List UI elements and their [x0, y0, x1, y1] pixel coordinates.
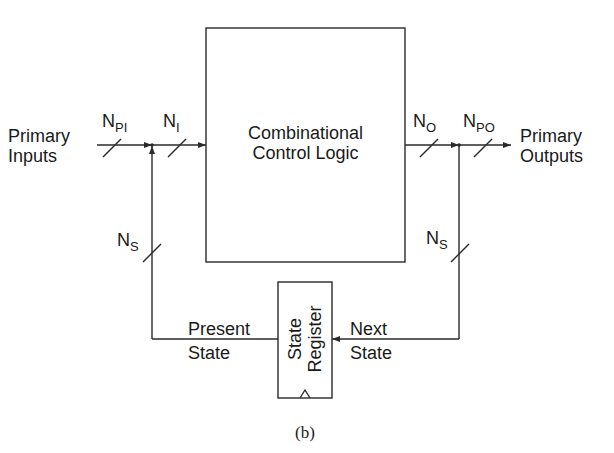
primary-outputs-line1: Primary	[520, 126, 583, 146]
npi-base: N	[102, 111, 115, 131]
primary-outputs-line2: Outputs	[520, 146, 583, 166]
primary-inputs-line2: Inputs	[8, 146, 70, 166]
present-state-label: Present State	[188, 319, 250, 363]
figure-caption: (b)	[280, 423, 330, 443]
state-register-label: State Register	[285, 289, 325, 389]
bus-width-npo-label: NPO	[463, 111, 495, 133]
bus-slash-npi	[103, 139, 121, 157]
no-sub: O	[426, 120, 436, 135]
bus-width-npi-label: NPI	[102, 111, 127, 133]
input-junction-dot	[150, 143, 154, 147]
no-base: N	[413, 111, 426, 131]
output-junction-dot	[457, 143, 461, 147]
next-state-line1: Next	[350, 319, 392, 339]
primary-inputs-label: Primary Inputs	[8, 126, 70, 166]
next-state-line2: State	[350, 343, 392, 363]
primary-outputs-label: Primary Outputs	[520, 126, 583, 166]
combinational-logic-line2: Control Logic	[206, 143, 405, 163]
ns-left-sub: S	[130, 239, 139, 254]
npo-base: N	[463, 111, 476, 131]
next-state-label: Next State	[350, 319, 392, 363]
npo-sub: PO	[476, 120, 495, 135]
bus-width-ns-left-label: NS	[117, 230, 139, 252]
ni-base: N	[163, 111, 176, 131]
bus-width-ni-label: NI	[163, 111, 180, 133]
npi-sub: PI	[115, 120, 127, 135]
bus-slash-ni	[168, 139, 186, 157]
combinational-logic-line1: Combinational	[206, 123, 405, 143]
bus-slash-ns-right	[451, 244, 469, 262]
state-register-line1: State	[285, 289, 305, 389]
ns-left-base: N	[117, 230, 130, 250]
combinational-logic-label: Combinational Control Logic	[206, 123, 405, 163]
present-state-line2: State	[188, 343, 250, 363]
state-register-line2: Register	[305, 289, 325, 389]
primary-inputs-line1: Primary	[8, 126, 70, 146]
bus-width-ns-right-label: NS	[426, 228, 448, 250]
bus-slash-no	[420, 139, 438, 157]
bus-slash-npo	[474, 139, 492, 157]
clock-input-icon	[300, 390, 310, 398]
ni-sub: I	[176, 120, 180, 135]
bus-width-no-label: NO	[413, 111, 436, 133]
ns-right-base: N	[426, 228, 439, 248]
present-state-line1: Present	[188, 319, 250, 339]
ns-right-sub: S	[439, 237, 448, 252]
